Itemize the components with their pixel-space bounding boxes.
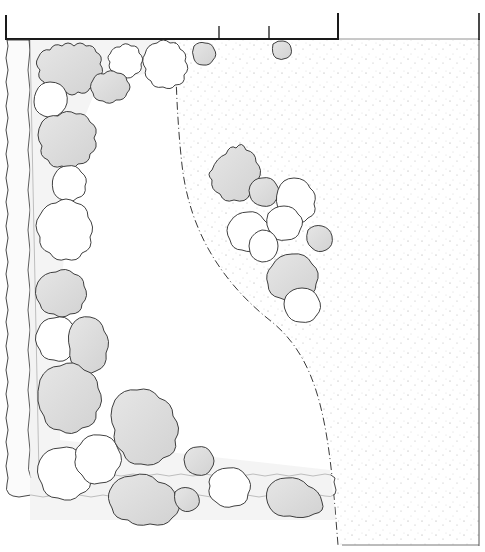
- shrub: [38, 363, 102, 434]
- top-boundary: [5, 13, 479, 40]
- shrub: [34, 82, 67, 117]
- shrub: [249, 230, 278, 262]
- shrub: [249, 178, 279, 207]
- shrub: [193, 42, 216, 65]
- shrub: [52, 166, 86, 202]
- shrub: [91, 71, 131, 104]
- shrub: [184, 447, 214, 476]
- shrub: [284, 288, 321, 322]
- shrub: [209, 468, 251, 508]
- shrub: [272, 41, 291, 60]
- garden-plan: [0, 0, 485, 552]
- shrub: [35, 269, 86, 317]
